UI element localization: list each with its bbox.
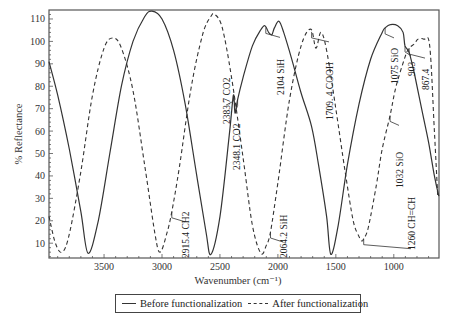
x-tick-label: 1000 [384, 261, 404, 272]
y-tick-label: 110 [30, 13, 45, 24]
annotation-leader-line [364, 239, 411, 249]
y-tick-label: 60 [35, 126, 45, 137]
annotations-layer: 2915.4 CH22383.7 CO22348.1 CO22104 SiH20… [172, 27, 431, 258]
annotation-label: 2383.7 CO2 [222, 77, 232, 124]
y-tick-label: 10 [35, 238, 45, 249]
y-axis-title: % Reflectance [13, 103, 24, 164]
ftir-chart: 102030405060708090100110 350030002500200… [0, 0, 452, 322]
y-tick-label: 90 [35, 58, 45, 69]
series-after-functionalization [49, 13, 438, 254]
annotation-label: 2915.4 CH2 [181, 211, 191, 258]
annotation-label: 1260 CH=CH [407, 197, 417, 250]
x-tick-label: 3000 [152, 261, 172, 272]
annotation-leader-line [385, 28, 394, 38]
y-tick-label: 50 [35, 148, 45, 159]
legend: Before functionalization After functiona… [115, 294, 361, 313]
annotation-leader-line [409, 48, 425, 58]
y-tick-label: 100 [30, 36, 45, 47]
series-layer [49, 11, 439, 255]
annotation-label: 867.4 [421, 68, 431, 90]
legend-solid-line-swatch [122, 303, 136, 304]
y-tick-label: 30 [35, 193, 45, 204]
annotation-label: 1032 SiO [395, 152, 405, 188]
x-axis: 350030002500200015001000 [58, 254, 429, 272]
y-tick-label: 70 [35, 103, 45, 114]
annotation-label: 903 [407, 62, 417, 77]
legend-label-before: Before functionalization [140, 298, 242, 309]
y-tick-label: 20 [35, 215, 45, 226]
legend-dashed-line-swatch [248, 303, 268, 304]
annotation-label: 2104 SiH [276, 59, 286, 95]
legend-item-before: Before functionalization [122, 298, 242, 309]
legend-item-after: After functionalization [248, 298, 368, 309]
annotation-label: 2064.2 SiH [279, 215, 289, 258]
x-axis-title: Wavenumber (cm⁻¹) [195, 275, 282, 287]
annotation-leader-line [390, 115, 399, 125]
annotation-label: 1709. 4 COOH [325, 62, 335, 120]
x-tick-label: 2000 [268, 261, 288, 272]
y-tick-label: 80 [35, 81, 45, 92]
x-tick-label: 1500 [326, 261, 346, 272]
series-before-functionalization [49, 11, 439, 255]
legend-label-after: After functionalization [272, 298, 368, 309]
y-tick-label: 40 [35, 170, 45, 181]
annotation-label: 2348.1 CO2 [232, 123, 242, 170]
plot-border [49, 10, 439, 258]
x-tick-label: 3500 [94, 261, 114, 272]
plot-frame [49, 10, 439, 258]
annotation-label: 1075 SiO [390, 48, 400, 84]
x-tick-label: 2500 [210, 261, 230, 272]
